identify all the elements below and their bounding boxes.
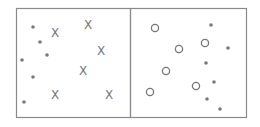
cross-marker: X — [97, 44, 105, 58]
circle-marker — [162, 67, 169, 74]
dot-marker — [31, 75, 35, 79]
dot-marker — [20, 58, 24, 62]
circle-marker — [192, 82, 199, 89]
circle-marker — [201, 39, 208, 46]
circle-marker — [175, 45, 182, 52]
dot-marker — [212, 80, 216, 84]
cross-marker: X — [51, 88, 59, 102]
dot-marker — [204, 61, 208, 65]
markers-layer: XXXXXX — [20, 18, 230, 111]
left-panel-frame — [17, 9, 131, 118]
two-panel-diagram: XXXXXX — [0, 0, 260, 127]
cross-marker: X — [105, 88, 113, 102]
dot-marker — [205, 97, 209, 101]
dot-marker — [209, 23, 213, 27]
cross-marker: X — [84, 18, 92, 32]
cross-marker: X — [79, 64, 87, 78]
circle-marker — [146, 88, 153, 95]
dot-marker — [45, 53, 49, 57]
cross-marker: X — [51, 26, 59, 40]
dot-marker — [38, 40, 42, 44]
dot-marker — [22, 100, 26, 104]
right-panel-frame — [131, 9, 247, 118]
dot-marker — [226, 46, 230, 50]
dot-marker — [218, 107, 222, 111]
circle-marker — [151, 24, 158, 31]
dot-marker — [31, 25, 35, 29]
